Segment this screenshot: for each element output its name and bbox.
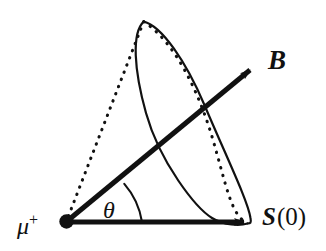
precession-ellipse-back (144, 22, 248, 224)
physics-diagram-figure: B S(0) θ μ+ (0, 0, 326, 251)
particle-symbol: μ (17, 213, 29, 239)
particle-charge-superscript: + (29, 211, 38, 228)
particle-label: μ+ (17, 212, 38, 238)
precession-ellipse-front (136, 22, 251, 225)
spin-vector-label: S(0) (262, 204, 306, 229)
angle-arc (124, 184, 142, 222)
angle-label: θ (103, 198, 115, 222)
magnetic-field-label: B (268, 47, 286, 74)
spin-vector-argument: (0) (277, 203, 306, 230)
spin-vector-symbol: S (262, 203, 277, 230)
muon-vertex-dot (59, 214, 73, 228)
